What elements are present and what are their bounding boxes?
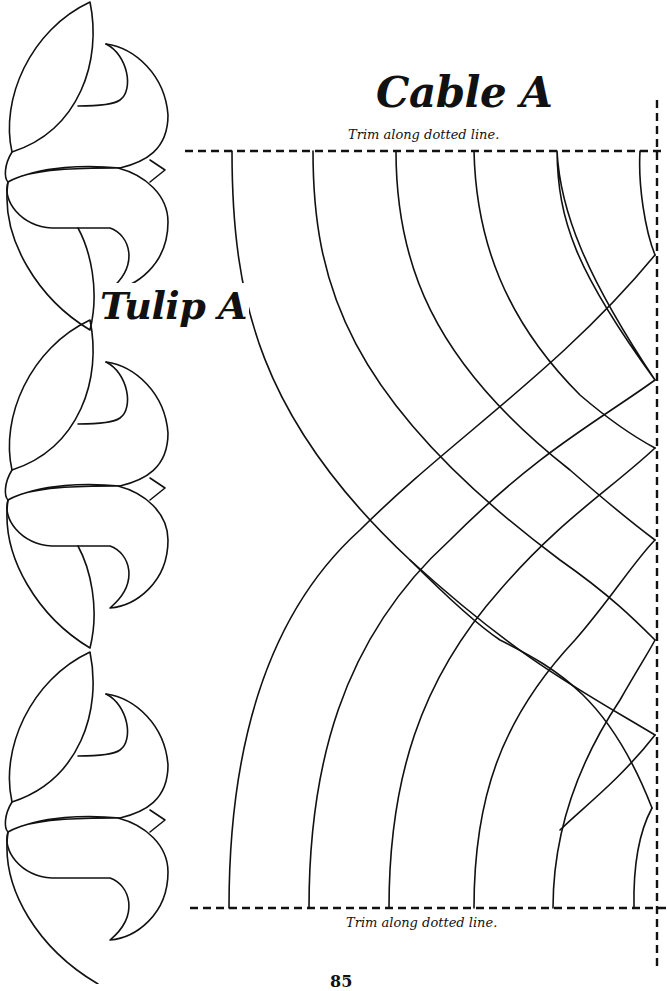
tulip-motif-3 — [5, 652, 168, 984]
cable-arcs-top — [232, 151, 655, 808]
cable-a-title: Cable A — [376, 68, 552, 117]
trim-instruction-top: Trim along dotted line. — [348, 127, 499, 142]
tulip-motif-2 — [5, 320, 168, 648]
page-number: 85 — [330, 972, 352, 991]
trim-lines — [185, 100, 666, 970]
tulip-motif-1 — [5, 2, 168, 330]
trim-instruction-bottom: Trim along dotted line. — [346, 915, 497, 930]
tulip-a-title: Tulip A — [100, 283, 249, 328]
cable-arcs-bottom — [229, 255, 655, 908]
